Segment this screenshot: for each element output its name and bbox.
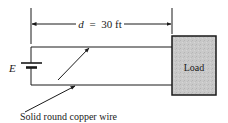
source-label: E [8, 62, 16, 74]
dimension-value: 30 ft [101, 18, 121, 30]
battery-icon [21, 57, 42, 70]
load-label: Load [184, 62, 205, 73]
dimension-equals: = [89, 18, 95, 30]
pointer-arrow-bottom-wire [25, 86, 75, 112]
circuit-diagram: d = 30 ft E Load Solid round copper wire [0, 0, 228, 123]
pointer-arrow-top-wire [58, 48, 89, 80]
wire-bottom [31, 70, 172, 85]
wire-top [31, 47, 172, 57]
dimension-label: d = 30 ft [78, 18, 122, 30]
dimension-variable: d [78, 18, 84, 30]
wire-label: Solid round copper wire [20, 111, 117, 122]
